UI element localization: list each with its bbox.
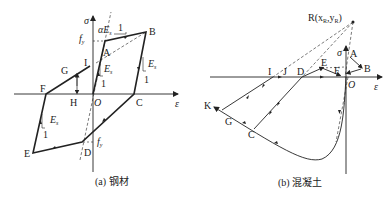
focal-point-label: R(xR,yR) [308,12,342,24]
point-h-label: H [70,97,77,108]
point-k-label-b: K [204,100,212,111]
caption-b: (b) 混凝土 [278,176,322,189]
origin-label: O [94,97,101,108]
es-one-3: 1 [43,129,48,140]
point-i-label: I [84,57,87,68]
slope-triangle-es-2 [143,57,146,71]
point-e-label-b: E [321,57,327,68]
es-label-2: Es [147,58,157,70]
point-a-label: A [103,47,111,58]
point-d-label: D [84,147,91,158]
line-d-e [302,68,322,77]
point-d-label-b: D [297,66,304,77]
arrow-j [278,76,282,79]
focal-dash-d [302,22,353,77]
es-one-2: 1 [144,74,149,85]
arrow-down [338,110,341,114]
line-b-f [348,69,361,73]
steel-loop [33,32,146,153]
point-a-label-b: A [350,48,358,59]
point-g-label-b: G [225,116,232,127]
es-label-1: Es [103,63,113,75]
panel-b-concrete: σ ε O R(xR,yR) A B F E [204,12,382,189]
sigma-axis-label-b: σ [337,47,343,58]
arrow-ig-1 [262,84,265,88]
point-f-label: F [40,83,46,94]
arrow-envelope-1 [242,121,246,124]
point-e-label: E [24,148,30,159]
point-b-label: B [149,26,156,37]
es-label-3: Es [49,114,59,126]
epsilon-axis-label-b: ε [374,81,378,92]
fy-bottom-label: fy [97,136,103,148]
envelope-curve [214,77,346,160]
es-one-1: 1 [101,78,106,89]
point-b-label-b: B [364,63,371,74]
alpha-slope-one: 1 [118,22,123,33]
sigma-axis-label: σ [84,15,90,26]
arrow-axis-left [320,76,324,79]
point-j-label-b: J [283,66,287,77]
fy-top-label: fy [79,33,85,45]
point-f-label-b: F [334,65,340,76]
caption-a: (a) 钢材 [95,175,129,188]
arrow-ig-2 [246,95,249,99]
alpha-es-label: αEs [98,24,112,36]
hysteresis-diagram: σ ε O [0,0,391,200]
slope-triangle-es-3 [42,114,45,128]
panel-a-steel: σ ε O [14,12,179,188]
origin-label-b: O [348,79,355,90]
epsilon-axis-label: ε [175,98,179,109]
point-i-label-b: I [268,66,271,77]
point-g-label: G [61,65,68,76]
point-c-label: C [136,97,143,108]
line-g-i [222,77,273,110]
point-c-label-b: C [248,129,255,140]
